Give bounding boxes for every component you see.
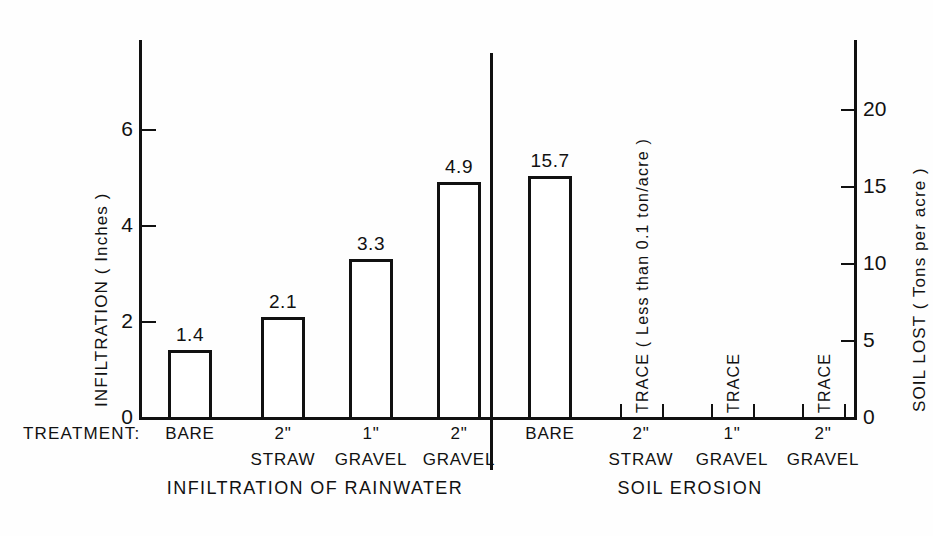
right-y-tick-label-5: 5 [863,328,875,352]
bar-value-label: 1.4 [160,324,220,346]
left-y-tick-4 [142,225,156,227]
x-tick [620,404,622,417]
bar-value-label: 3.3 [341,233,401,255]
left-y-axis-line [139,40,142,419]
bar-infiltration-bare [168,350,212,420]
left-y-tick-6 [142,129,156,131]
section-title-infiltration: INFILTRATION OF RAINWATER [150,478,480,499]
trace-annotation-gravel1: TRACE [725,353,743,413]
right-y-tick-label-20: 20 [863,97,886,121]
category-label-line2: STRAW [233,450,333,470]
trace-annotation-straw: TRACE ( Less than 0.1 ton/acre ) [634,138,652,413]
left-y-tick-label-4: 4 [113,213,133,237]
bar-infiltration-gravel1 [349,259,393,420]
x-tick [802,404,804,417]
baseline-axis [139,417,857,420]
right-y-tick-10 [841,263,855,265]
bar-value-label: 4.9 [429,156,489,178]
category-label-line2: GRAVEL [773,450,873,470]
bar-value-label: 15.7 [518,150,582,172]
left-y-tick-2 [142,321,156,323]
right-y-tick-label-10: 10 [863,251,886,275]
right-axis-title: SOIL LOST ( Tons per acre ) [910,167,930,412]
x-tick [662,404,664,417]
treatment-row-label: TREATMENT: [23,424,140,444]
right-y-tick-5 [841,340,855,342]
category-label-line2: STRAW [591,450,691,470]
bar-soil-bare [528,176,572,420]
x-tick [753,404,755,417]
left-axis-title: INFILTRATION ( Inches ) [92,192,112,407]
bar-value-label: 2.1 [253,291,313,313]
x-tick [711,404,713,417]
right-y-axis-line [854,40,857,419]
category-label-line1: BARE [500,424,600,444]
right-y-tick-label-15: 15 [863,174,886,198]
right-y-tick-20 [841,109,855,111]
chart-figure: 6 4 2 0 INFILTRATION ( Inches ) 20 15 10… [0,0,933,536]
category-label-line1: 1" [682,424,782,444]
category-label-line1: BARE [140,424,240,444]
trace-annotation-gravel2: TRACE [816,353,834,413]
category-label-line2: GRAVEL [682,450,782,470]
category-label-line1: 2" [409,424,509,444]
category-label-line1: 2" [773,424,873,444]
left-y-tick-label-6: 6 [113,117,133,141]
category-label-line1: 1" [321,424,421,444]
category-label-line1: 2" [233,424,333,444]
category-label-line2: GRAVEL [409,450,509,470]
bar-infiltration-straw [261,317,305,420]
bar-infiltration-gravel2 [437,182,481,420]
x-tick [844,404,846,417]
category-label-line1: 2" [591,424,691,444]
category-label-line2: GRAVEL [321,450,421,470]
left-y-tick-label-2: 2 [113,309,133,333]
right-y-tick-15 [841,186,855,188]
section-title-erosion: SOIL EROSION [540,478,840,499]
panel-divider [490,53,493,470]
